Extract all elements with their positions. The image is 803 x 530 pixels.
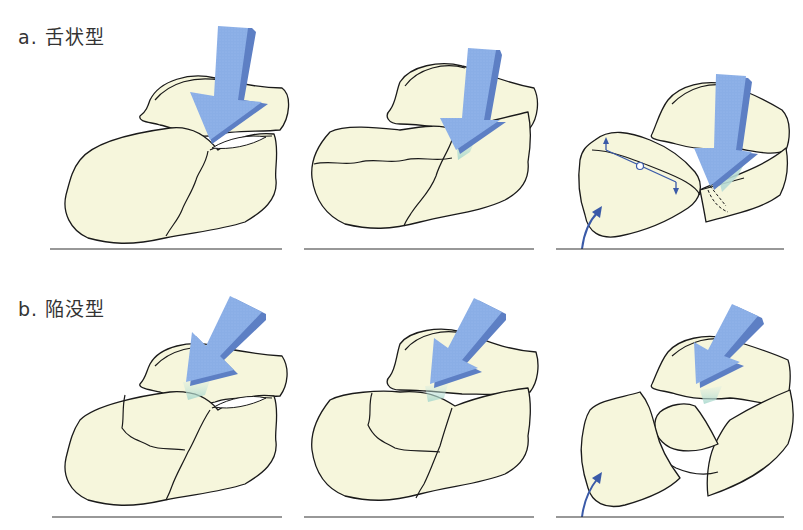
diagram-b-stage-1 — [50, 290, 290, 530]
diagram-b-stage-3 — [560, 290, 803, 530]
diagram-a-stage-1 — [50, 20, 290, 260]
calcaneus — [312, 388, 531, 500]
diagram-a-stage-2 — [300, 20, 540, 260]
calcaneus — [65, 128, 277, 244]
calcaneus — [65, 392, 277, 506]
diagram-b-stage-2 — [300, 290, 540, 530]
calcaneus-tuberosity — [579, 132, 700, 237]
calcaneus-anterior — [707, 390, 793, 496]
calcaneus — [312, 112, 531, 228]
diagram-a-stage-3 — [560, 20, 803, 260]
